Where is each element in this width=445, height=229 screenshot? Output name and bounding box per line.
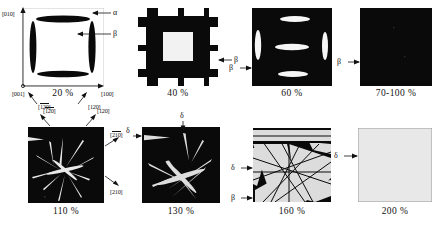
phase-label-delta-panel200: δ xyxy=(334,151,338,160)
panel-200-leader-overlay xyxy=(0,0,445,229)
micrograph-figure: 20 % [010] [001] [100] [120] [120] α β xyxy=(0,0,445,229)
